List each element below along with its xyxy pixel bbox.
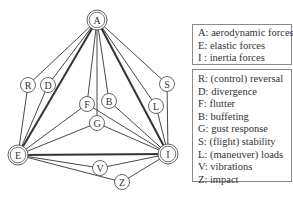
legend-force-inertia: I : inertia forces (198, 52, 291, 65)
edge-g-i (97, 123, 168, 154)
edge-f-e (18, 104, 87, 155)
node-s: S (160, 77, 175, 92)
svg-text:R: R (25, 80, 32, 91)
node-f: F (80, 97, 95, 112)
legend-reversal: R: (control) reversal (198, 73, 291, 86)
node-a: A (87, 10, 107, 30)
svg-text:B: B (106, 96, 113, 107)
legend-buffeting: B: buffeting (198, 111, 291, 124)
node-v: V (93, 161, 108, 176)
svg-text:Z: Z (119, 177, 125, 188)
edge-e-i (18, 154, 168, 155)
edge-a-s (97, 20, 167, 84)
legend-force-elastic: E: elastic forces (198, 40, 291, 53)
legend-divergence: D: divergence (198, 86, 291, 99)
svg-text:S: S (164, 79, 170, 90)
node-d: D (41, 78, 56, 93)
legend-gust-response: G: gust response (198, 123, 291, 136)
node-g: G (90, 116, 105, 131)
forces-legend-box: A: aerodynamic forces E: elastic forces … (192, 24, 292, 65)
phenomena-legend-box: R: (control) reversal D: divergence F: f… (192, 69, 292, 182)
node-i: I (158, 144, 178, 164)
node-r: R (21, 78, 36, 93)
node-e: E (8, 145, 28, 165)
edge-a-r (28, 20, 97, 85)
edge-a-l (97, 20, 156, 106)
svg-text:E: E (15, 150, 21, 161)
legend-stability: S: (flight) stability (198, 136, 291, 149)
svg-text:G: G (93, 118, 100, 129)
svg-text:L: L (153, 101, 159, 112)
svg-text:F: F (84, 99, 90, 110)
diagram-nodes: RDFBGSLVZAEI (8, 10, 178, 190)
legend-impact: Z: impact (198, 174, 291, 187)
node-l: L (149, 99, 164, 114)
aeroelastic-triangle-diagram: RDFBGSLVZAEI (0, 0, 190, 198)
edge-a-i (97, 20, 168, 154)
legend-vibrations: V: vibrations (198, 161, 291, 174)
legend-flutter: F: flutter (198, 98, 291, 111)
node-z: Z (115, 175, 130, 190)
svg-text:I: I (166, 149, 169, 160)
node-b: B (102, 94, 117, 109)
edge-a-d (48, 20, 97, 85)
legend-force-aerodynamic: A: aerodynamic forces (198, 27, 291, 40)
svg-text:D: D (44, 80, 51, 91)
svg-text:A: A (93, 15, 101, 26)
legend-loads: L: (maneuver) loads (198, 149, 291, 162)
edge-s-i (167, 84, 168, 154)
svg-text:V: V (96, 163, 104, 174)
